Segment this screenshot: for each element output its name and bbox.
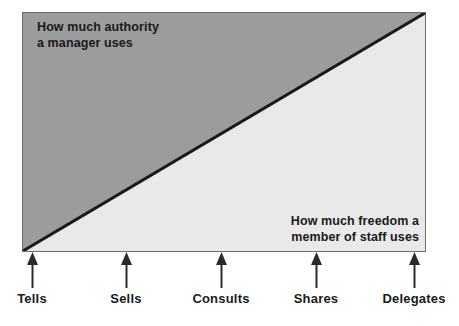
freedom-caption-line1: How much freedom a xyxy=(291,214,419,228)
axis-tick-delegates: Delegates xyxy=(369,252,459,306)
up-arrow-icon xyxy=(408,252,421,288)
up-arrow-icon xyxy=(120,252,133,288)
axis-tick-sells: Sells xyxy=(81,252,171,306)
up-arrow-icon xyxy=(310,252,323,288)
plot-box: How much authority a manager uses How mu… xyxy=(22,12,426,252)
axis-tick-tells: Tells xyxy=(0,252,77,306)
freedom-caption: How much freedom a member of staff uses xyxy=(291,213,419,245)
authority-caption: How much authority a manager uses xyxy=(37,19,159,51)
axis-tick-label: Tells xyxy=(0,291,77,306)
axis-tick-label: Consults xyxy=(176,291,266,306)
authority-caption-line2: a manager uses xyxy=(37,36,133,50)
freedom-caption-line2: member of staff uses xyxy=(291,230,419,244)
axis-tick-consults: Consults xyxy=(176,252,266,306)
up-arrow-icon xyxy=(215,252,228,288)
axis-tick-label: Delegates xyxy=(369,291,459,306)
axis-tick-label: Sells xyxy=(81,291,171,306)
axis-tick-shares: Shares xyxy=(271,252,361,306)
leadership-continuum-diagram: How much authority a manager uses How mu… xyxy=(0,0,459,326)
up-arrow-icon xyxy=(26,252,39,288)
axis-tick-label: Shares xyxy=(271,291,361,306)
authority-caption-line1: How much authority xyxy=(37,20,159,34)
axis-tick-group: Tells Sells Consults Shares xyxy=(0,252,459,326)
